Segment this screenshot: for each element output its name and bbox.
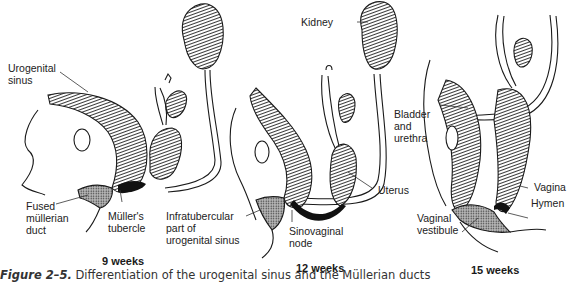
gonad-shape	[166, 91, 187, 118]
gonad-shape	[514, 38, 533, 67]
stage-label-9-weeks: 9 weeks	[102, 255, 144, 267]
infratubercular-region	[256, 197, 285, 230]
label-sinovaginal-node: Sinovaginal node	[289, 225, 343, 249]
figure-number: Figure 2–5.	[0, 268, 72, 282]
figure-caption: Figure 2–5. Differentiation of the uroge…	[0, 268, 572, 282]
panel-12-weeks	[230, 2, 397, 258]
uterus-primordium	[150, 128, 182, 179]
label-vaginal-vestibule: Vaginal vestibule	[417, 212, 458, 236]
kidney-shape	[361, 2, 397, 69]
panel-9-weeks	[22, 4, 223, 232]
label-urogenital-sinus: Urogenital sinus	[8, 62, 56, 86]
label-bladder-urethra: Bladder and urethra	[394, 108, 430, 144]
label-kidney: Kidney	[301, 16, 333, 28]
vagina-shape	[494, 89, 531, 212]
gonad-shape	[339, 94, 355, 123]
label-hymen: Hymen	[531, 197, 564, 209]
label-uterus: Uterus	[378, 184, 409, 196]
label-infratubercular-part: Infratubercular part of urogenital sinus	[166, 210, 240, 246]
kidney-shape	[182, 4, 223, 69]
label-vagina: Vagina	[534, 181, 566, 193]
label-fused-mullerian-duct: Fused müllerian duct	[26, 200, 69, 236]
bladder-urethra-shape	[438, 80, 481, 212]
label-mullers-tubercle: Müller's tubercle	[108, 210, 145, 234]
caption-text: Differentiation of the urogenital sinus …	[72, 268, 431, 282]
urogenital-sinus-shape	[48, 93, 147, 193]
